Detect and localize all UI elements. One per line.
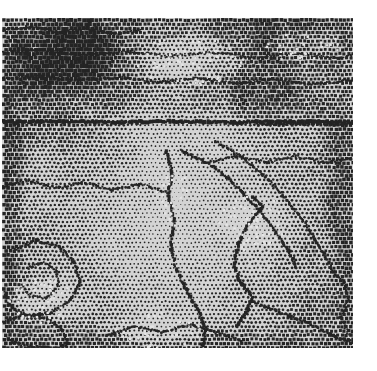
image-viewport: Monochrome error-diffusion / halftone di… xyxy=(0,0,377,371)
halftone-dither-image xyxy=(0,0,377,371)
